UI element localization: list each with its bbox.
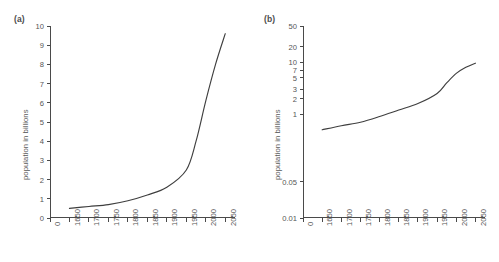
y-tick-label-b-1: 20 (289, 42, 297, 51)
x-tick-label-b-5: 1850 (402, 209, 411, 226)
y-tick-marks-a (47, 26, 51, 218)
y-tick-label-b-0: 50 (289, 22, 297, 31)
y-tick-label-a-10: 10 (36, 22, 44, 31)
x-tick-label-b-9: 2050 (479, 209, 488, 226)
y-tick-label-a-6: 6 (40, 98, 44, 107)
y-tick-label-b-9: 0.01 (282, 214, 297, 223)
x-tick-label-a-7: 1950 (190, 209, 199, 226)
plot-svg-b (303, 26, 485, 218)
x-tick-label-b-6: 1900 (421, 209, 430, 226)
y-tick-label-a-2: 2 (40, 175, 44, 184)
y-tick-label-a-7: 7 (40, 79, 44, 88)
chart-panel-b: (b) population in billions 502010753210.… (250, 0, 499, 262)
panel-label-a: (a) (14, 14, 25, 24)
data-curve-a (69, 34, 225, 209)
y-tick-label-b-4: 5 (293, 73, 297, 82)
y-tick-label-b-7: 1 (293, 110, 297, 119)
x-tick-label-a-5: 1850 (151, 209, 160, 226)
y-tick-label-b-5: 3 (293, 85, 297, 94)
x-tick-label-b-3: 1750 (364, 209, 373, 226)
y-tick-marks-b (300, 26, 304, 218)
y-tick-label-a-3: 3 (40, 156, 44, 165)
y-tick-label-a-8: 8 (40, 60, 44, 69)
y-tick-label-a-4: 4 (40, 137, 44, 146)
y-tick-label-b-8: 0.05 (282, 177, 297, 186)
x-tick-label-b-2: 1700 (345, 209, 354, 226)
x-tick-label-a-9: 2050 (229, 209, 238, 226)
plot-svg-a (50, 26, 235, 218)
data-curve-b (322, 63, 475, 130)
chart-panel-a: (a) population in billions 012345678910 … (0, 0, 249, 262)
x-tick-label-a-3: 1750 (112, 209, 121, 226)
x-tick-label-b-7: 1950 (440, 209, 449, 226)
y-axis-title-b: population in billions (273, 109, 282, 180)
y-tick-label-b-6: 2 (293, 94, 297, 103)
plot-area-b (303, 26, 485, 218)
x-tick-label-a-0: 0 (53, 222, 62, 226)
panel-label-b: (b) (264, 14, 275, 24)
figure-population-growth: (a) population in billions 012345678910 … (0, 0, 499, 262)
x-tick-label-b-4: 1800 (383, 209, 392, 226)
x-tick-label-b-8: 2000 (460, 209, 469, 226)
x-tick-label-b-1: 1650 (325, 209, 334, 226)
plot-area-a (50, 26, 235, 218)
x-tick-label-b-0: 0 (306, 222, 315, 226)
x-tick-label-a-8: 2000 (209, 209, 218, 226)
y-axis-title-a: population in billions (21, 109, 30, 180)
y-tick-label-a-0: 0 (40, 214, 44, 223)
y-tick-label-a-9: 9 (40, 41, 44, 50)
x-tick-label-a-6: 1900 (170, 209, 179, 226)
x-tick-label-a-4: 1800 (131, 209, 140, 226)
x-tick-label-a-2: 1700 (92, 209, 101, 226)
x-tick-label-a-1: 1650 (73, 209, 82, 226)
y-tick-label-a-5: 5 (40, 118, 44, 127)
y-tick-label-a-1: 1 (40, 194, 44, 203)
